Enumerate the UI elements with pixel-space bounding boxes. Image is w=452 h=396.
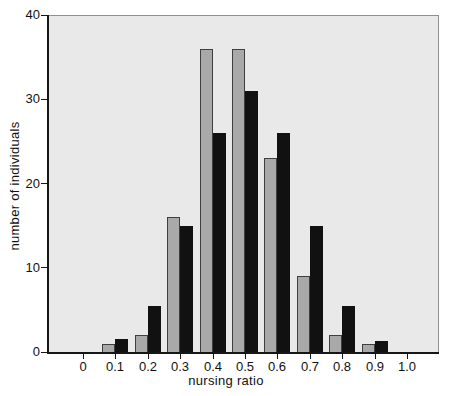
y-tick-mark <box>41 352 47 353</box>
bar-black-0.4 <box>213 133 226 352</box>
x-axis-line <box>47 352 439 354</box>
x-tick-label: 0.5 <box>227 360 263 374</box>
histogram-chart: nursing ratio number of individuals 0102… <box>0 0 452 396</box>
x-tick-label: 0.8 <box>324 360 360 374</box>
x-tick-label: 1.0 <box>389 360 425 374</box>
bar-gray-0.8 <box>329 335 342 352</box>
bar-black-0.3 <box>180 226 193 352</box>
bar-black-0.7 <box>310 226 323 352</box>
bar-black-0.6 <box>277 133 290 352</box>
bar-gray-0.4 <box>200 49 213 352</box>
x-tick-label: 0.7 <box>292 360 328 374</box>
y-tick-label: 30 <box>6 92 40 106</box>
x-tick-label: 0.6 <box>259 360 295 374</box>
x-tick-label: 0 <box>65 360 101 374</box>
bar-gray-0.9 <box>362 344 375 352</box>
y-tick-mark <box>41 183 47 184</box>
bar-black-0.9 <box>375 341 388 352</box>
x-axis-title: nursing ratio <box>0 373 452 388</box>
bar-black-0.5 <box>245 91 258 352</box>
y-tick-mark <box>41 15 47 16</box>
bar-gray-0.3 <box>167 217 180 352</box>
bar-black-0.8 <box>342 306 355 352</box>
y-tick-mark <box>41 99 47 100</box>
y-axis-line <box>47 15 49 354</box>
x-tick-label: 0.1 <box>97 360 133 374</box>
x-tick-label: 0.9 <box>357 360 393 374</box>
x-tick-label: 0.2 <box>130 360 166 374</box>
y-tick-label: 40 <box>6 8 40 22</box>
bar-black-0.1 <box>115 339 128 352</box>
y-tick-label: 20 <box>6 177 40 191</box>
y-tick-label: 0 <box>6 345 40 359</box>
bar-black-0.2 <box>148 306 161 352</box>
y-tick-label: 10 <box>6 261 40 275</box>
bar-gray-0.2 <box>135 335 148 352</box>
y-tick-mark <box>41 267 47 268</box>
x-tick-label: 0.4 <box>195 360 231 374</box>
x-tick-label: 0.3 <box>162 360 198 374</box>
bar-gray-0.1 <box>102 344 115 352</box>
bar-gray-0.7 <box>297 276 310 352</box>
bar-gray-0.5 <box>232 49 245 352</box>
bar-gray-0.6 <box>264 158 277 352</box>
